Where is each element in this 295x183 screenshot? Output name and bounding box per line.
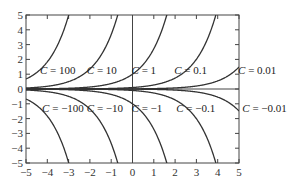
x-tick-label: 2 — [172, 166, 178, 178]
x-tick-label: 3 — [194, 166, 200, 178]
y-tick-label: −3 — [11, 127, 23, 139]
x-tick-label: −1 — [105, 166, 117, 178]
y-tick-label: 2 — [18, 53, 24, 65]
y-tick-label: 0 — [18, 83, 24, 95]
y-tick-label: −1 — [11, 98, 23, 110]
x-tick-label: 4 — [215, 166, 221, 178]
curve-label: C = −0.01 — [242, 102, 287, 114]
curve-label: C = 0.1 — [174, 64, 207, 76]
curve-label: C = −10 — [87, 102, 124, 114]
y-tick-label: 3 — [18, 39, 24, 51]
y-tick-label: −2 — [11, 113, 23, 125]
x-tick-label: −3 — [63, 166, 75, 178]
x-tick-label: 1 — [151, 166, 157, 178]
x-tick-label: 5 — [236, 166, 242, 178]
y-tick-label: −5 — [11, 157, 23, 169]
y-tick-label: 1 — [18, 68, 24, 80]
x-tick-label: −4 — [41, 166, 53, 178]
curve-label: C = 0.01 — [238, 64, 276, 76]
curve-label: C = −0.1 — [176, 102, 215, 114]
y-tick-label: 5 — [18, 9, 24, 21]
curve-label: C = −1 — [132, 102, 163, 114]
curve-label: C = 1 — [132, 64, 157, 76]
curve-label: C = 100 — [40, 64, 76, 76]
curve-label: C = 10 — [87, 64, 118, 76]
y-tick-label: 4 — [18, 24, 24, 36]
exponential-family-chart: C = 100C = 10C = 1C = 0.1C = 0.01C = −10… — [0, 0, 295, 183]
x-tick-label: 0 — [130, 166, 136, 178]
x-tick-label: −2 — [84, 166, 96, 178]
curve-label: C = −100 — [42, 102, 84, 114]
y-tick-label: −4 — [11, 142, 23, 154]
